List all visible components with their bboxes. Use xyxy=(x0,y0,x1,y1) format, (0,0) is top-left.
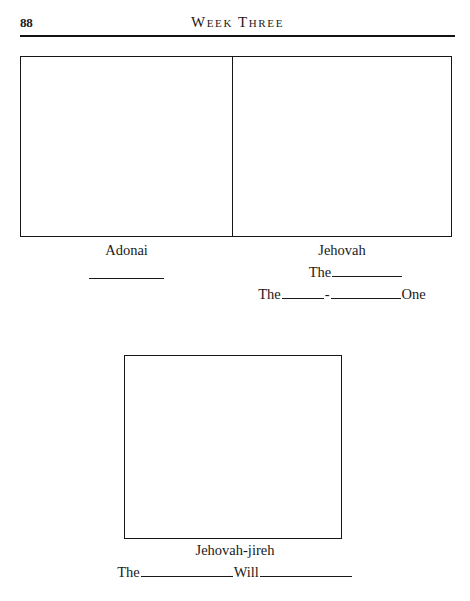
jehovah-line1-the-label: The xyxy=(309,264,332,280)
jehovah-caption-title: Jehovah xyxy=(232,240,452,260)
jehovah-line2-one-label: One xyxy=(402,286,426,302)
jehovah-caption: Jehovah The The-One xyxy=(232,240,452,304)
jehovah-jireh-caption-title: Jehovah-jireh xyxy=(60,540,410,560)
jehovah-line1-blank[interactable] xyxy=(332,262,402,277)
jehovah-caption-line-2: The-One xyxy=(232,284,452,304)
jehovah-line2-blank-1[interactable] xyxy=(282,284,324,299)
header-rule xyxy=(20,35,455,37)
jireh-blank-1[interactable] xyxy=(141,562,233,577)
adonai-blank-line[interactable] xyxy=(89,264,164,279)
jireh-will-label: Will xyxy=(234,564,259,580)
running-head: 88 Week Three xyxy=(20,13,455,35)
running-title: Week Three xyxy=(20,13,455,32)
jehovah-jireh-caption-line: TheWill xyxy=(60,562,410,582)
jehovah-jireh-caption: Jehovah-jireh TheWill xyxy=(60,540,410,582)
jehovah-line2-hyphen: - xyxy=(325,286,330,302)
jehovah-jireh-drawing-box[interactable] xyxy=(124,355,342,539)
jireh-the-label: The xyxy=(117,564,140,580)
jehovah-caption-line-1: The xyxy=(232,262,452,282)
adonai-caption: Adonai xyxy=(20,240,233,284)
adonai-caption-title: Adonai xyxy=(20,240,233,260)
jehovah-drawing-box[interactable] xyxy=(232,56,452,237)
jehovah-line2-blank-2[interactable] xyxy=(331,284,401,299)
jehovah-line2-the-label: The xyxy=(258,286,281,302)
adonai-drawing-box[interactable] xyxy=(20,56,233,237)
jireh-blank-2[interactable] xyxy=(260,562,352,577)
